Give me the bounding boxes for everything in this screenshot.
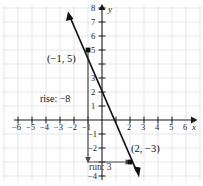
y-tick-label-neg4: −4 bbox=[88, 172, 97, 181]
x-axis-label: x bbox=[192, 123, 196, 132]
y-tick-label-neg1: −1 bbox=[88, 130, 97, 139]
y-tick-label-3: 3 bbox=[91, 74, 95, 83]
coordinate-plane-svg bbox=[0, 0, 203, 186]
x-tick-label-4: 4 bbox=[155, 123, 159, 132]
point-label-a: (−1, 5) bbox=[47, 54, 76, 65]
x-tick-label-neg2: −2 bbox=[68, 123, 77, 132]
y-tick-label-neg2: −2 bbox=[88, 144, 97, 153]
x-tick-label-2: 2 bbox=[127, 123, 131, 132]
x-tick-label-neg4: −4 bbox=[40, 123, 49, 132]
y-tick-label-1: 1 bbox=[91, 102, 95, 111]
graph-figure: y x −6 −5 −4 −3 −2 −1 2 3 4 5 6 8 7 6 5 … bbox=[0, 0, 203, 186]
x-tick-label-neg6: −6 bbox=[12, 123, 21, 132]
x-tick-label-5: 5 bbox=[169, 123, 173, 132]
point-label-b: (2, −3) bbox=[131, 144, 160, 155]
point-marker-a bbox=[86, 48, 91, 53]
y-tick-label-7: 7 bbox=[91, 18, 95, 27]
y-tick-label-2: 2 bbox=[91, 88, 95, 97]
rise-annotation: rise: −8 bbox=[40, 94, 70, 104]
x-tick-label-neg3: −3 bbox=[54, 123, 63, 132]
point-marker-b bbox=[128, 160, 133, 165]
x-tick-label-3: 3 bbox=[141, 123, 145, 132]
y-tick-label-8: 8 bbox=[91, 4, 95, 13]
x-tick-label-6: 6 bbox=[183, 123, 187, 132]
y-tick-label-5: 5 bbox=[91, 46, 95, 55]
x-tick-label-neg5: −5 bbox=[26, 123, 35, 132]
run-annotation: run: 3 bbox=[89, 163, 111, 173]
y-axis-label: y bbox=[108, 5, 112, 14]
y-tick-label-6: 6 bbox=[91, 32, 95, 41]
